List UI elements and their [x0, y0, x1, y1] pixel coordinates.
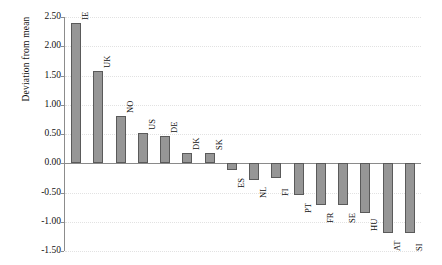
y-axis-tick-label: -1.00 — [0, 216, 61, 226]
bar-fi[interactable] — [271, 163, 281, 178]
gridline — [65, 222, 421, 223]
bar-us[interactable] — [138, 133, 148, 163]
y-axis-tick-label: 1.50 — [0, 70, 61, 80]
bar-no[interactable] — [116, 116, 126, 163]
y-axis-tick-label: -0.50 — [0, 187, 61, 197]
bar-label-pt: PT — [303, 203, 313, 213]
bar-label-fi: FI — [280, 188, 290, 196]
bar-label-no: NO — [125, 101, 135, 113]
plot-area: IEUKNOUSDEDKSKESNLFIPTFRSEHUATSI — [65, 17, 421, 251]
y-axis-tick-mark — [61, 251, 64, 252]
bar-de[interactable] — [160, 136, 170, 163]
gridline — [65, 17, 421, 18]
bar-label-si: SI — [414, 244, 424, 252]
bar-label-de: DE — [169, 122, 179, 134]
bar-ie[interactable] — [71, 23, 81, 163]
gridline — [65, 251, 421, 252]
bar-label-nl: NL — [258, 186, 268, 198]
bar-si[interactable] — [405, 163, 415, 233]
bar-pt[interactable] — [294, 163, 304, 195]
bar-hu[interactable] — [360, 163, 370, 213]
bar-label-us: US — [147, 119, 157, 130]
y-axis-tick-label: 2.50 — [0, 11, 61, 21]
bar-label-se: SE — [347, 213, 357, 223]
bar-uk[interactable] — [93, 71, 103, 163]
bar-chart: Deviation from mean 2.502.001.501.000.50… — [0, 0, 442, 265]
bar-label-hu: HU — [369, 218, 379, 230]
y-axis-tick-label: -1.50 — [0, 245, 61, 255]
bar-nl[interactable] — [249, 163, 259, 179]
bar-label-dk: DK — [191, 138, 201, 150]
bar-label-es: ES — [236, 178, 246, 188]
bar-label-sk: SK — [214, 139, 224, 150]
bar-dk[interactable] — [182, 153, 192, 163]
gridline — [65, 105, 421, 106]
gridline — [65, 76, 421, 77]
bar-label-uk: UK — [102, 55, 112, 67]
y-axis-tick-label: 0.00 — [0, 157, 61, 167]
bar-at[interactable] — [383, 163, 393, 233]
bar-es[interactable] — [227, 163, 237, 170]
bar-label-at: AT — [392, 241, 402, 252]
y-axis-tick-label: 0.50 — [0, 128, 61, 138]
bar-label-ie: IE — [80, 12, 90, 20]
y-axis-tick-label: 1.00 — [0, 99, 61, 109]
bar-label-fr: FR — [325, 213, 335, 224]
bar-fr[interactable] — [316, 163, 326, 205]
y-axis-tick-label: 2.00 — [0, 40, 61, 50]
bar-sk[interactable] — [205, 153, 215, 163]
bar-se[interactable] — [338, 163, 348, 205]
gridline — [65, 46, 421, 47]
